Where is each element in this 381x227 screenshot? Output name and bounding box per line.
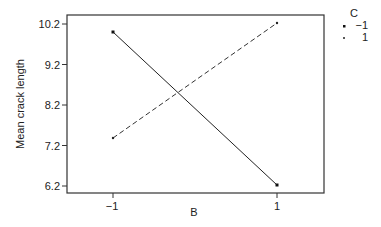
y-tick-label: 6.2 — [45, 180, 60, 192]
y-tick-label: 8.2 — [45, 99, 60, 111]
dot-marker-icon — [276, 22, 278, 24]
legend: C −1 1 — [343, 7, 368, 43]
legend-entry: 1 — [362, 31, 368, 43]
x-tick-label: 1 — [274, 200, 280, 212]
y-tick-label: 7.2 — [45, 140, 60, 152]
legend-entry: −1 — [355, 19, 368, 31]
series-c-minus1 — [112, 31, 279, 187]
y-axis-title: Mean crack length — [14, 59, 26, 149]
x-axis: −1 1 B — [106, 193, 280, 218]
square-marker-icon — [276, 184, 279, 187]
dot-marker-icon — [343, 37, 345, 39]
y-axis: 10.2 9.2 8.2 7.2 6.2 Mean crack length — [14, 18, 67, 192]
y-tick-label: 10.2 — [39, 18, 60, 30]
legend-title: C — [350, 7, 358, 19]
square-marker-icon — [112, 31, 115, 34]
y-tick-label: 9.2 — [45, 59, 60, 71]
plot-frame — [67, 15, 324, 193]
dot-marker-icon — [112, 137, 114, 139]
series-c-1 — [112, 22, 278, 139]
interaction-plot: 10.2 9.2 8.2 7.2 6.2 Mean crack length −… — [0, 0, 381, 227]
square-marker-icon — [343, 25, 346, 28]
x-axis-title: B — [190, 206, 197, 218]
x-tick-label: −1 — [106, 200, 119, 212]
